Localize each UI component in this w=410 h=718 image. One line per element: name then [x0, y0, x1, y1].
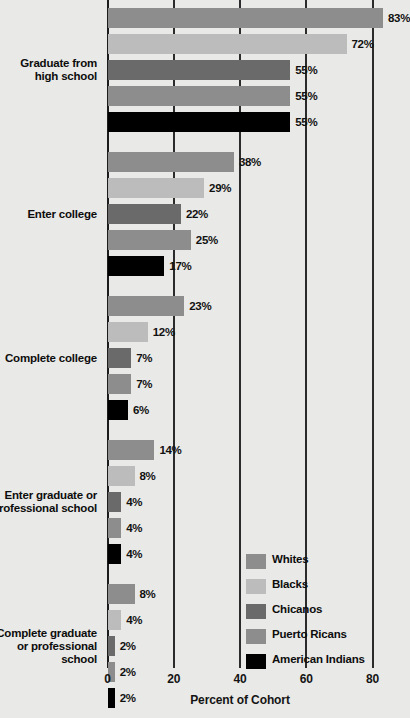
bar — [108, 636, 115, 656]
bar-value-label: 55% — [295, 90, 317, 102]
x-tick-label: 40 — [234, 672, 247, 686]
bar-value-label: 8% — [140, 588, 156, 600]
bar-group: Complete graduateor professionalschool8%… — [0, 584, 410, 708]
x-tick-label: 60 — [300, 672, 313, 686]
x-axis-title: Percent of Cohort — [108, 693, 373, 707]
bar — [108, 348, 131, 368]
bar — [108, 34, 347, 54]
x-tick-label: 0 — [104, 672, 110, 686]
bar — [108, 544, 121, 564]
bar-value-label: 7% — [136, 352, 152, 364]
bar — [108, 466, 135, 486]
bar-value-label: 12% — [153, 326, 175, 338]
legend-label: Whites — [272, 553, 309, 565]
group-label: Complete college — [0, 352, 97, 365]
bar — [108, 610, 121, 630]
bar — [108, 518, 121, 538]
bar-value-label: 38% — [239, 156, 261, 168]
bar-value-label: 4% — [126, 496, 142, 508]
bar-value-label: 17% — [169, 260, 191, 272]
bar — [108, 492, 121, 512]
legend-swatch — [246, 554, 266, 569]
bar-value-label: 29% — [209, 182, 231, 194]
legend-label: Blacks — [272, 578, 308, 590]
bar-value-label: 2% — [120, 666, 136, 678]
group-label: Complete graduateor professionalschool — [0, 627, 97, 666]
bar — [108, 584, 135, 604]
bar-value-label: 55% — [295, 116, 317, 128]
group-label: Graduate fromhigh school — [0, 57, 97, 83]
bar-value-label: 4% — [126, 548, 142, 560]
bar-value-label: 23% — [189, 300, 211, 312]
x-tick-label: 20 — [167, 672, 180, 686]
bar — [108, 230, 191, 250]
bar-value-label: 25% — [196, 234, 218, 246]
bar-value-label: 83% — [388, 12, 410, 24]
bar — [108, 86, 290, 106]
group-label: Enter college — [0, 208, 97, 221]
legend-label: Chicanos — [272, 603, 322, 615]
chart-page: Graduate fromhigh school83%72%55%55%55%E… — [0, 0, 410, 718]
bar — [108, 152, 234, 172]
group-label: Enter graduate orprofessional school — [0, 489, 97, 515]
legend-label: Puerto Ricans — [272, 628, 347, 640]
legend-swatch — [246, 579, 266, 594]
bar-value-label: 14% — [159, 444, 181, 456]
bar — [108, 440, 154, 460]
bar — [108, 296, 184, 316]
legend-label: American Indians — [272, 653, 365, 665]
bar-value-label: 72% — [352, 38, 374, 50]
bar — [108, 60, 290, 80]
bar-value-label: 6% — [133, 404, 149, 416]
bar-value-label: 4% — [126, 614, 142, 626]
bar-value-label: 2% — [120, 640, 136, 652]
bar-group: Complete college23%12%7%7%6% — [0, 296, 410, 420]
bar — [108, 374, 131, 394]
bar — [108, 322, 148, 342]
bar-value-label: 4% — [126, 522, 142, 534]
plot-area: Graduate fromhigh school83%72%55%55%55%E… — [0, 0, 410, 718]
bar-group: Enter college38%29%22%25%17% — [0, 152, 410, 276]
legend-swatch — [246, 604, 266, 619]
legend-swatch — [246, 629, 266, 644]
bar-value-label: 55% — [295, 64, 317, 76]
bar-group: Graduate fromhigh school83%72%55%55%55% — [0, 8, 410, 132]
bar — [108, 112, 290, 132]
bar — [108, 400, 128, 420]
bar — [108, 178, 204, 198]
bar — [108, 8, 383, 28]
x-tick-label: 80 — [366, 672, 379, 686]
bar — [108, 256, 164, 276]
bar-value-label: 8% — [140, 470, 156, 482]
bar — [108, 204, 181, 224]
bar-group: Enter graduate orprofessional school14%8… — [0, 440, 410, 564]
bar-value-label: 7% — [136, 378, 152, 390]
legend-swatch — [246, 654, 266, 669]
bar-value-label: 22% — [186, 208, 208, 220]
